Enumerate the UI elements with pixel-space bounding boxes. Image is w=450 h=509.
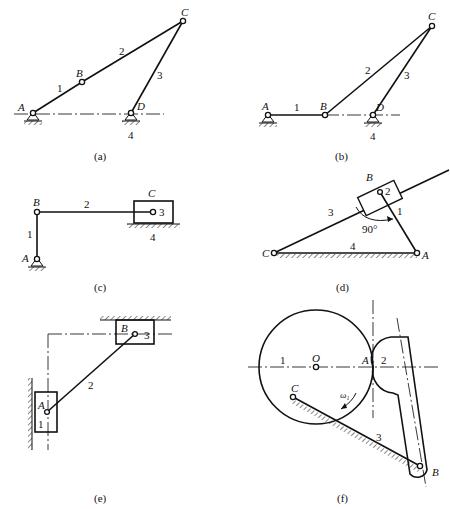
label-a: A [37, 399, 45, 411]
joint-c [290, 394, 295, 399]
label-c: C [181, 6, 189, 18]
ground-hatch [127, 224, 180, 228]
slider-2 [358, 180, 403, 215]
joint-a [414, 250, 419, 255]
figure-d: B 2 1 3 90° 4 C A (d) [262, 170, 449, 294]
label-b: B [320, 100, 327, 112]
ground-hatch [277, 254, 417, 258]
label-c: C [262, 247, 270, 259]
joint-b [133, 332, 138, 337]
label-a: A [17, 101, 25, 113]
label-link-2: 2 [365, 64, 371, 76]
label-link-2: 2 [381, 354, 387, 366]
label-a: A [261, 100, 269, 112]
mechanism-diagrams: A B C D 1 2 3 4 (a) A B C D 1 2 [0, 0, 450, 509]
figure-f: 1 O A 2 C ω₁ 3 B (f) [248, 300, 439, 505]
label-link-3: 3 [144, 329, 150, 341]
label-c: C [148, 187, 156, 199]
joint-c [180, 18, 185, 23]
joint-c [150, 209, 155, 214]
label-link-2: 2 [84, 198, 90, 210]
label-a: A [361, 354, 369, 366]
figure-c: B A C 1 2 3 4 (c) [21, 187, 180, 294]
joint-a [34, 256, 39, 261]
link-2 [82, 21, 183, 82]
angle-arrow [387, 216, 393, 222]
caption-f: (f) [337, 492, 348, 505]
label-omega: ω₁ [340, 390, 349, 400]
link-2 [47, 334, 135, 412]
angle-label: 90° [362, 223, 377, 235]
joint-a [45, 410, 50, 415]
label-link-3: 3 [376, 431, 382, 443]
label-link-1: 1 [57, 82, 63, 94]
figure-e: B 3 2 A 1 (e) [28, 316, 172, 505]
caption-e: (e) [94, 492, 107, 505]
label-d: D [375, 101, 384, 113]
label-link-4: 4 [128, 129, 134, 141]
label-link-4: 4 [350, 240, 356, 252]
joint-c [271, 250, 276, 255]
label-link-3: 3 [328, 206, 334, 218]
label-link-2: 2 [385, 185, 391, 197]
joint-a [30, 110, 35, 115]
label-link-4: 4 [150, 231, 156, 243]
label-link-2: 2 [88, 379, 94, 391]
joint-o [313, 364, 318, 369]
joint-b [34, 209, 39, 214]
joint-b [378, 190, 383, 195]
caption-c: (c) [94, 281, 107, 294]
label-link-1: 1 [38, 418, 44, 430]
label-link-3: 3 [404, 69, 410, 81]
figure-b: A B C D 1 2 3 4 (b) [259, 10, 436, 163]
joint-b [322, 112, 327, 117]
link-1 [380, 192, 417, 253]
label-b: B [366, 171, 373, 183]
caption-a: (a) [94, 150, 107, 163]
label-link-1: 1 [280, 354, 286, 366]
label-a: A [421, 249, 429, 261]
label-b: B [76, 67, 83, 79]
joint-b [79, 79, 84, 84]
label-b: B [121, 322, 128, 334]
label-d: D [136, 100, 145, 112]
joint-b [417, 463, 422, 468]
label-link-2: 2 [119, 45, 125, 57]
caption-d: (d) [336, 281, 349, 294]
label-b: B [33, 196, 40, 208]
label-link-1: 1 [397, 205, 403, 217]
label-link-1: 1 [27, 228, 33, 240]
label-c: C [428, 10, 436, 22]
link-3 [274, 170, 449, 253]
left-ground-hatch [28, 378, 32, 450]
label-link-4: 4 [370, 130, 376, 142]
label-a: A [21, 252, 29, 264]
label-b: B [432, 466, 439, 478]
joint-c [429, 23, 434, 28]
link-2-body [371, 337, 427, 477]
label-link-1: 1 [294, 101, 300, 113]
joint-d [370, 112, 375, 117]
caption-b: (b) [335, 150, 348, 163]
figure-a: A B C D 1 2 3 4 (a) [14, 6, 189, 163]
joint-a [265, 112, 270, 117]
label-link-3: 3 [157, 69, 163, 81]
joint-d [128, 110, 133, 115]
label-link-3: 3 [159, 206, 165, 218]
label-o: O [312, 352, 320, 364]
omega-arrowhead [341, 403, 347, 409]
label-c: C [291, 382, 299, 394]
